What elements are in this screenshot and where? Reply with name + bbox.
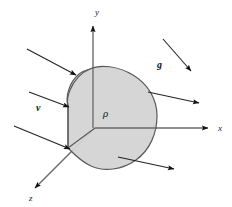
outflow-arrow-upper-right — [148, 92, 199, 103]
density-symbol-label: ρ — [102, 107, 108, 119]
control-volume-group — [67, 66, 157, 169]
gravity-vector-arrow — [163, 39, 191, 71]
gravity-vector-group — [163, 39, 191, 71]
velocity-vector-label: v — [36, 102, 41, 113]
x-axis-label: x — [217, 123, 222, 133]
control-volume-blob — [67, 66, 157, 169]
y-axis-label: y — [94, 7, 99, 17]
figure-canvas: y x z ρ g v — [0, 0, 232, 207]
inflow-arrow-top-left — [27, 49, 76, 75]
gravity-vector-label: g — [156, 59, 162, 70]
inflow-arrow-bottom-left — [14, 126, 70, 149]
physics-control-volume-figure: y x z ρ g v — [0, 0, 232, 207]
inflow-arrow-middle-left — [29, 92, 69, 107]
z-axis-label: z — [28, 193, 33, 203]
